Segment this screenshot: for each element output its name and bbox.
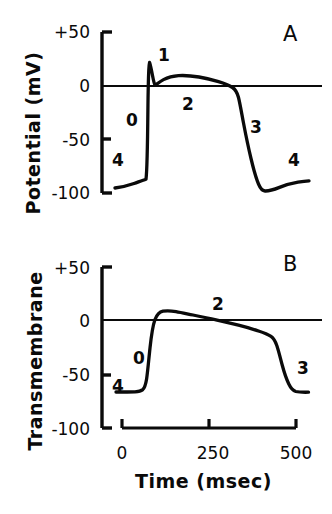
panel-b-ytick-minus50: -50 (32, 365, 90, 385)
panel-b-x-axis (122, 419, 296, 428)
panel-b-ytick-minus100: -100 (32, 419, 90, 439)
panel-a-ytick-0: 0 (32, 76, 90, 96)
panel-a-ytick-plus50: +50 (32, 22, 90, 42)
panel-a-y-axis (102, 32, 112, 193)
panel-b-letter: B (283, 252, 297, 276)
panel-b-y-axis-title: Transmembrane (24, 246, 46, 476)
panel-a-phase-4-right-label: 4 (288, 150, 300, 170)
panel-a-trace (115, 62, 309, 191)
panel-b-ytick-0: 0 (32, 311, 90, 331)
panel-a-ytick-minus50: -50 (32, 130, 90, 150)
x-axis-title: Time (msec) (96, 470, 311, 492)
panel-a-letter: A (283, 22, 297, 46)
panel-b-xtick-0: 0 (96, 443, 148, 463)
panel-b-phase-3-label: 3 (297, 358, 309, 378)
panel-b-xtick-500: 500 (270, 443, 322, 463)
panel-a-phase-4-left-label: 4 (112, 150, 124, 170)
panel-b-phase-0-label: 0 (133, 348, 145, 368)
panel-b-phase-4-label: 4 (112, 376, 124, 396)
panel-b-ytick-plus50: +50 (32, 258, 90, 278)
panel-a-phase-3-label: 3 (250, 117, 262, 137)
panel-a-ytick-minus100: -100 (32, 183, 90, 203)
panel-a-phase-0-label: 0 (126, 110, 138, 130)
panel-b-xtick-250: 250 (187, 443, 239, 463)
panel-a-phase-2-label: 2 (182, 94, 194, 114)
panel-a-phase-1-label: 1 (158, 45, 170, 65)
figure-root: Potential (mV) A +50 0 -50 -100 0 1 2 3 … (0, 0, 332, 514)
panel-b-phase-2-label: 2 (212, 294, 224, 314)
panel-b-y-axis (102, 267, 112, 428)
